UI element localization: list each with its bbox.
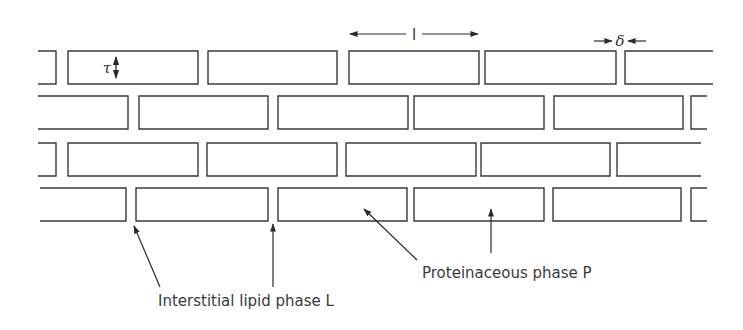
brick-corneocyte: [349, 51, 479, 84]
tau-dimension: τ: [103, 57, 116, 78]
brick-corneocyte: [553, 188, 681, 221]
brick-corneocyte: [481, 143, 610, 176]
brick-corneocyte: [68, 51, 198, 84]
length-dimension: l: [350, 26, 478, 44]
protein-annotation: Proteinaceous phase P: [364, 209, 592, 282]
brick-corneocyte: [207, 143, 337, 176]
delta-dimension: δ: [594, 32, 646, 50]
brick-corneocyte: [278, 188, 407, 221]
brick-corneocyte: [617, 143, 701, 176]
brick-corneocyte: [40, 188, 126, 221]
brick-corneocyte: [38, 96, 128, 129]
brick-corneocyte: [691, 188, 707, 221]
tau-symbol: τ: [103, 59, 112, 77]
length-symbol: l: [412, 26, 416, 44]
brick-corneocyte: [346, 143, 476, 176]
brick-corneocyte: [691, 96, 707, 129]
brick-corneocyte: [136, 188, 268, 221]
lipid-annotation: Interstitial lipid phase L: [134, 224, 335, 310]
brick-corneocyte: [625, 51, 713, 84]
protein-phase-label: Proteinaceous phase P: [422, 264, 592, 282]
brick-corneocyte: [414, 96, 544, 129]
delta-symbol: δ: [615, 32, 624, 50]
brick-corneocyte: [68, 143, 198, 176]
protein-pointer-arrows: [364, 209, 491, 260]
brick-corneocyte: [485, 51, 616, 84]
pointer-arrow: [364, 209, 417, 260]
brick-corneocyte: [38, 51, 56, 84]
annotations: Interstitial lipid phase L Proteinaceous…: [134, 209, 592, 310]
brick-rows: [38, 51, 713, 221]
brick-corneocyte: [208, 51, 337, 84]
brick-corneocyte: [414, 188, 544, 221]
lipid-phase-label: Interstitial lipid phase L: [158, 292, 335, 310]
lipid-pointer-arrows: [134, 224, 273, 287]
pointer-arrow: [134, 226, 160, 287]
brick-corneocyte: [554, 96, 683, 129]
brick-corneocyte: [278, 96, 408, 129]
brick-mortar-diagram: τ l δ Interstitial lipid phase L Protein…: [0, 0, 743, 330]
brick-corneocyte: [38, 143, 56, 176]
brick-corneocyte: [139, 96, 268, 129]
